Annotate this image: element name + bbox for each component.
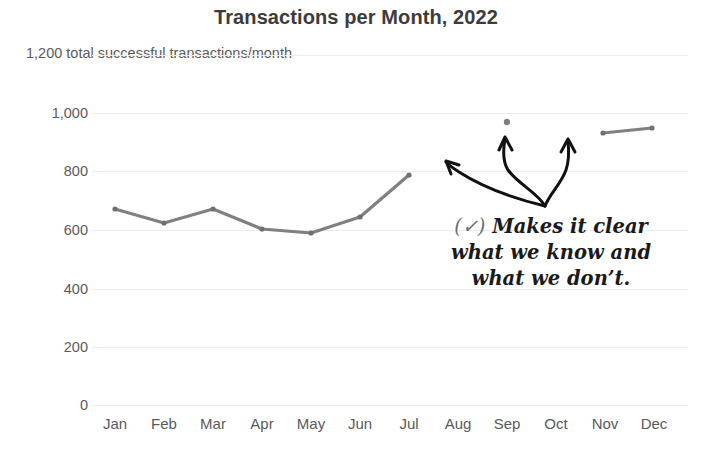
y-tick-600: 600 xyxy=(12,222,88,238)
annotation-line-1: (✓) Makes it clear xyxy=(428,214,674,240)
x-tick-oct: Oct xyxy=(544,415,567,432)
y-tick-400: 400 xyxy=(12,281,88,297)
x-tick-jan: Jan xyxy=(103,415,127,432)
y-tick-800: 800 xyxy=(12,163,88,179)
chart-screenshot: Transactions per Month, 2022 1,200 total… xyxy=(0,0,712,473)
y-tick-1000: 1,000 xyxy=(12,105,88,121)
gridline-1000 xyxy=(92,113,688,114)
x-tick-dec: Dec xyxy=(641,415,668,432)
x-tick-apr: Apr xyxy=(250,415,273,432)
x-tick-aug: Aug xyxy=(445,415,472,432)
annotation-line-1-text: Makes it clear xyxy=(492,215,648,238)
check-icon: (✓) xyxy=(454,215,485,238)
x-tick-jun: Jun xyxy=(348,415,372,432)
y-tick-0: 0 xyxy=(12,397,88,413)
gridline-1200 xyxy=(92,55,688,56)
annotation-line-2: what we know and xyxy=(428,240,674,266)
annotation-note: (✓) Makes it clear what we know and what… xyxy=(428,214,674,292)
y-axis: 1,000 800 600 400 200 0 xyxy=(0,55,88,406)
x-tick-mar: Mar xyxy=(200,415,226,432)
x-tick-jul: Jul xyxy=(399,415,418,432)
y-tick-200: 200 xyxy=(12,339,88,355)
gridline-0 xyxy=(92,405,688,406)
x-tick-sep: Sep xyxy=(494,415,521,432)
gridline-200 xyxy=(92,347,688,348)
x-tick-nov: Nov xyxy=(592,415,619,432)
page-title: Transactions per Month, 2022 xyxy=(0,6,712,29)
annotation-line-3: what we don’t. xyxy=(428,266,674,292)
x-axis: Jan Feb Mar Apr May Jun Jul Aug Sep Oct … xyxy=(92,415,688,443)
x-tick-feb: Feb xyxy=(151,415,177,432)
x-tick-may: May xyxy=(297,415,325,432)
gridline-800 xyxy=(92,171,688,172)
